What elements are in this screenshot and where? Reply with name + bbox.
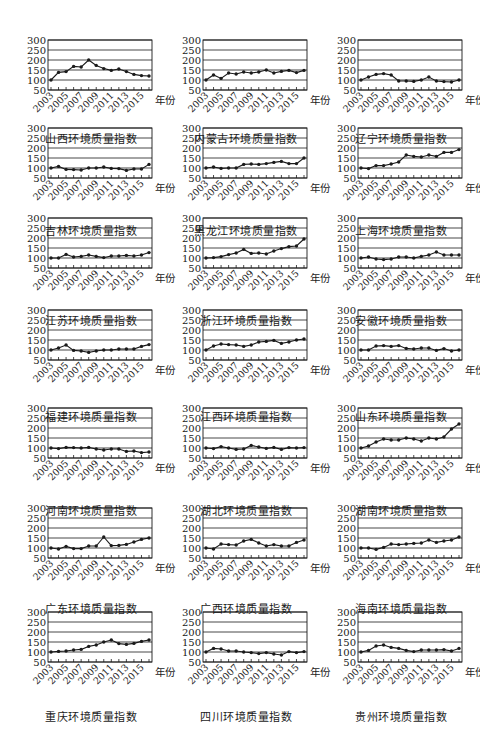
data-point-marker xyxy=(302,156,305,159)
y-tick-label: 100 xyxy=(337,253,356,264)
y-tick-label: 200 xyxy=(182,325,201,336)
data-point-marker xyxy=(95,447,98,450)
data-point-marker xyxy=(442,253,445,256)
y-tick-label: 200 xyxy=(27,325,46,336)
data-point-marker xyxy=(147,536,150,539)
y-tick-label: 300 xyxy=(182,503,201,514)
data-point-marker xyxy=(140,74,143,77)
data-point-marker xyxy=(125,643,128,646)
data-point-marker xyxy=(442,151,445,154)
data-point-marker xyxy=(397,438,400,441)
data-point-marker xyxy=(79,255,82,258)
y-tick-label: 100 xyxy=(182,443,201,454)
data-point-marker xyxy=(280,70,283,73)
data-point-marker xyxy=(64,70,67,73)
data-point-marker xyxy=(359,166,362,169)
y-tick-label: 250 xyxy=(27,133,46,144)
data-point-marker xyxy=(389,438,392,441)
y-tick-label: 250 xyxy=(337,617,356,628)
y-tick-label: 250 xyxy=(27,315,46,326)
data-point-marker xyxy=(95,255,98,258)
data-point-marker xyxy=(265,252,268,255)
data-point-marker xyxy=(272,446,275,449)
y-tick-label: 300 xyxy=(27,607,46,618)
data-point-marker xyxy=(64,545,67,548)
y-tick-label: 150 xyxy=(337,533,356,544)
data-point-marker xyxy=(397,79,400,82)
y-tick-label: 300 xyxy=(27,503,46,514)
data-point-marker xyxy=(250,651,253,654)
y-tick-label: 200 xyxy=(337,233,356,244)
chart-panel: 5010015020025030020032005200720092011201… xyxy=(12,612,170,716)
y-tick-label: 250 xyxy=(182,315,201,326)
data-point-marker xyxy=(389,646,392,649)
data-point-marker xyxy=(242,248,245,251)
data-point-marker xyxy=(147,74,150,77)
data-point-marker xyxy=(102,348,105,351)
data-point-marker xyxy=(389,542,392,545)
data-point-marker xyxy=(87,253,90,256)
y-tick-label: 200 xyxy=(182,523,201,534)
data-point-marker xyxy=(147,343,150,346)
data-point-marker xyxy=(265,651,268,654)
data-point-marker xyxy=(57,256,60,259)
data-point-marker xyxy=(64,343,67,346)
y-tick-label: 150 xyxy=(182,243,201,254)
data-point-marker xyxy=(132,73,135,76)
data-point-marker xyxy=(204,256,207,259)
y-tick-label: 200 xyxy=(182,423,201,434)
y-tick-label: 300 xyxy=(337,403,356,414)
data-point-marker xyxy=(397,255,400,258)
data-point-marker xyxy=(295,162,298,165)
line-chart: 5010015020025030020032005200720092011201… xyxy=(12,310,170,414)
y-tick-label: 300 xyxy=(182,305,201,316)
data-point-marker xyxy=(302,69,305,72)
data-point-marker xyxy=(272,652,275,655)
data-point-marker xyxy=(212,256,215,259)
data-point-marker xyxy=(117,347,120,350)
data-point-marker xyxy=(219,255,222,258)
line-chart: 5010015020025030020032005200720092011201… xyxy=(167,612,325,716)
data-point-marker xyxy=(147,163,150,166)
data-point-marker xyxy=(57,346,60,349)
data-point-marker xyxy=(389,345,392,348)
y-tick-label: 200 xyxy=(27,233,46,244)
data-point-marker xyxy=(359,256,362,259)
y-tick-label: 200 xyxy=(182,627,201,638)
data-point-marker xyxy=(280,448,283,451)
data-point-marker xyxy=(72,65,75,68)
data-point-marker xyxy=(457,148,460,151)
data-point-marker xyxy=(457,422,460,425)
data-point-marker xyxy=(125,543,128,546)
data-point-marker xyxy=(442,347,445,350)
y-tick-label: 100 xyxy=(27,345,46,356)
data-point-marker xyxy=(427,648,430,651)
data-point-marker xyxy=(49,546,52,549)
y-tick-label: 200 xyxy=(182,55,201,66)
chart-panel: 5010015020025030020032005200720092011201… xyxy=(322,310,480,414)
data-point-marker xyxy=(295,338,298,341)
data-point-marker xyxy=(302,538,305,541)
data-point-marker xyxy=(49,446,52,449)
data-point-marker xyxy=(64,253,67,256)
y-tick-label: 100 xyxy=(182,163,201,174)
data-point-marker xyxy=(110,638,113,641)
data-point-marker xyxy=(295,71,298,74)
chart-panel: 5010015020025030020032005200720092011201… xyxy=(12,310,170,414)
data-point-marker xyxy=(72,168,75,171)
x-unit-label: 年份 xyxy=(465,562,480,574)
data-point-marker xyxy=(212,73,215,76)
data-point-marker xyxy=(140,167,143,170)
data-point-marker xyxy=(397,160,400,163)
line-chart: 5010015020025030020032005200720092011201… xyxy=(322,612,480,716)
data-point-marker xyxy=(420,346,423,349)
data-point-marker xyxy=(374,548,377,551)
data-point-marker xyxy=(272,249,275,252)
y-tick-label: 200 xyxy=(182,143,201,154)
data-point-marker xyxy=(117,167,120,170)
data-point-marker xyxy=(457,535,460,538)
y-tick-label: 100 xyxy=(27,443,46,454)
data-point-marker xyxy=(420,648,423,651)
data-point-marker xyxy=(442,435,445,438)
data-point-marker xyxy=(420,541,423,544)
